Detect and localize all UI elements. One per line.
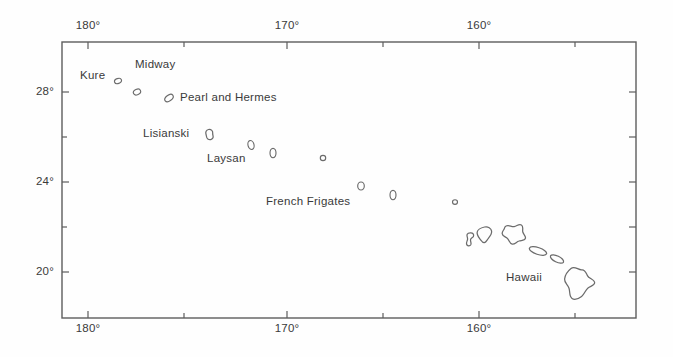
island-niihau bbox=[466, 233, 473, 246]
map-frame bbox=[62, 42, 636, 318]
island-maro-reef bbox=[270, 148, 276, 157]
island-hawaii-big-island bbox=[565, 267, 595, 299]
left-axis-label-20: 20° bbox=[24, 265, 54, 277]
place-label-pearl-and-hermes: Pearl and Hermes bbox=[180, 91, 277, 103]
left-axis-ticks bbox=[62, 92, 69, 272]
place-label-midway: Midway bbox=[135, 58, 175, 70]
island-necker bbox=[390, 190, 396, 199]
place-label-laysan: Laysan bbox=[207, 152, 246, 164]
top-axis-label-180: 180° bbox=[62, 19, 114, 31]
island-nihoa bbox=[453, 200, 458, 205]
island-french-frigate-shoals bbox=[358, 182, 365, 190]
bottom-axis-label-180: 180° bbox=[62, 322, 114, 334]
left-axis-label-28: 28° bbox=[24, 85, 54, 97]
island-gardner-pinnacles bbox=[320, 155, 325, 160]
island-midway-atoll bbox=[132, 88, 141, 96]
island-molokai bbox=[528, 245, 547, 257]
top-axis-label-160: 160° bbox=[453, 19, 505, 31]
map-figure: 180° 170° 160° 180° 170° 160° 28° 24° 20… bbox=[0, 0, 673, 357]
island-laysan bbox=[247, 140, 255, 150]
island-oahu bbox=[502, 225, 525, 245]
place-label-french-frigates: French Frigates bbox=[266, 195, 350, 207]
bottom-axis-label-160: 160° bbox=[453, 322, 505, 334]
left-axis-label-24: 24° bbox=[24, 175, 54, 187]
island-lisianski bbox=[206, 129, 213, 139]
right-axis-ticks bbox=[629, 92, 636, 272]
bottom-axis-ticks bbox=[88, 311, 575, 318]
island-pearl-and-hermes-reef bbox=[163, 93, 174, 103]
island-kauai bbox=[477, 227, 492, 243]
top-axis-label-170: 170° bbox=[261, 19, 313, 31]
island-maui bbox=[549, 253, 565, 265]
island-kure-atoll bbox=[114, 77, 122, 84]
map-canvas bbox=[0, 0, 673, 357]
place-label-lisianski: Lisianski bbox=[143, 127, 189, 139]
place-label-hawaii: Hawaii bbox=[506, 271, 542, 283]
place-label-kure: Kure bbox=[80, 69, 105, 81]
top-axis-ticks bbox=[88, 42, 575, 49]
bottom-axis-label-170: 170° bbox=[261, 322, 313, 334]
